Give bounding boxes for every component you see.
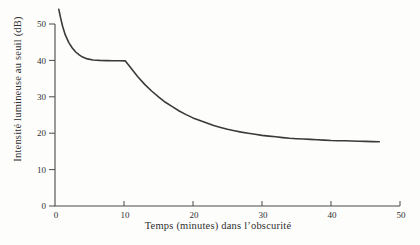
x-axis-title: Temps (minutes) dans l’obscurité — [16, 220, 420, 231]
x-tick-label: 10 — [121, 210, 131, 220]
x-tick-label: 40 — [328, 210, 338, 220]
y-tick-label: 40 — [37, 56, 47, 66]
y-axis-title: Intensité lumineuse au seuil (dB) — [12, 16, 23, 161]
axes-spines — [55, 24, 400, 206]
y-tick-label: 50 — [37, 19, 47, 29]
y-tick-label: 20 — [37, 128, 47, 138]
dark-adaptation-figure: 0102030405001020304050 Temps (minutes) d… — [0, 0, 420, 245]
y-tick-label: 10 — [37, 165, 47, 175]
x-tick-label: 30 — [259, 210, 269, 220]
x-tick-label: 0 — [54, 210, 59, 220]
threshold-curve — [59, 9, 380, 141]
line-chart-canvas: 0102030405001020304050 — [0, 0, 420, 245]
x-tick-label: 50 — [397, 210, 407, 220]
x-tick-label: 20 — [190, 210, 200, 220]
y-tick-label: 30 — [37, 92, 47, 102]
y-tick-label: 0 — [42, 201, 47, 211]
